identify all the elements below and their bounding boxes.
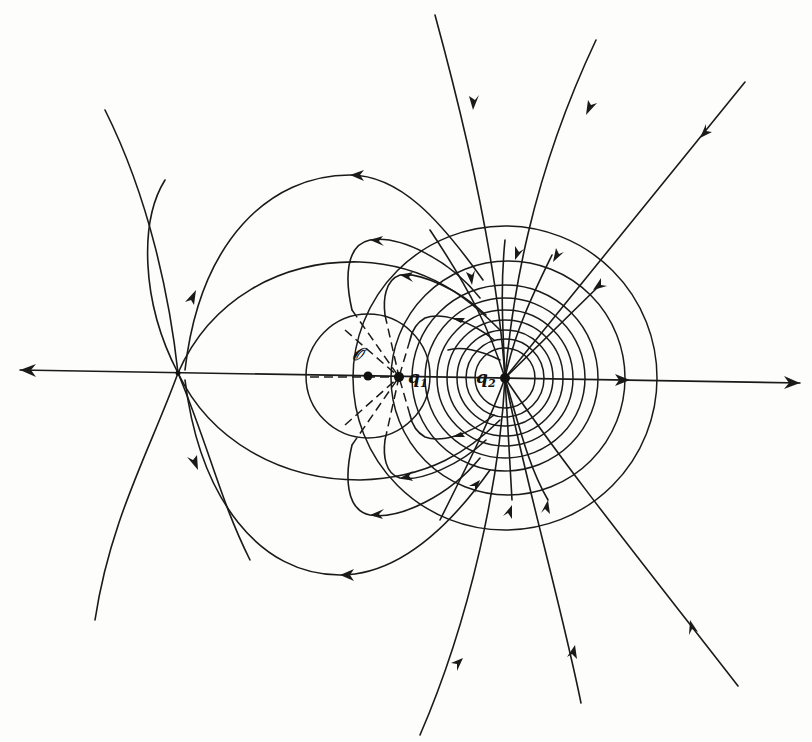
field-lines-inner-top bbox=[348, 236, 500, 360]
q2-label: q2 bbox=[476, 367, 496, 390]
field-diagram-svg: 𝒪 q1 q2 bbox=[0, 0, 812, 742]
field-lines-inner-bottom bbox=[348, 415, 494, 519]
field-diagram: 𝒪 q1 q2 bbox=[0, 0, 812, 742]
field-lines-up bbox=[430, 15, 745, 378]
q2-point bbox=[500, 373, 510, 383]
q1-point bbox=[394, 372, 404, 382]
neutral-point bbox=[176, 371, 181, 376]
origin-label: 𝒪 bbox=[352, 344, 367, 364]
origin-point bbox=[364, 372, 373, 381]
field-line-top-loop bbox=[185, 170, 483, 370]
outer-equipotential bbox=[95, 110, 500, 620]
